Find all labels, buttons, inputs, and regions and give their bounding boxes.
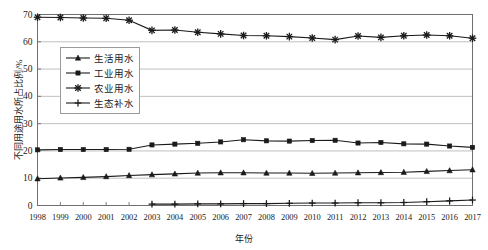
data-point-asterisk — [423, 31, 431, 39]
data-point-asterisk — [469, 34, 477, 42]
data-point-square — [104, 147, 108, 151]
legend-item: 农业用水 — [65, 80, 134, 95]
data-point-asterisk — [102, 15, 110, 23]
data-point-asterisk — [446, 32, 454, 40]
data-point-asterisk — [308, 34, 316, 42]
data-point-square — [76, 70, 80, 74]
data-point-asterisk — [217, 30, 225, 38]
data-point-plus — [149, 201, 156, 208]
data-point-asterisk — [240, 32, 248, 40]
data-point-asterisk — [377, 34, 385, 42]
data-point-square — [310, 138, 314, 142]
legend-label: 农业用水 — [91, 81, 134, 95]
data-point-plus — [423, 198, 430, 205]
data-point-square — [196, 141, 200, 145]
data-point-asterisk — [79, 14, 87, 22]
data-point-asterisk — [354, 32, 362, 40]
data-point-square — [448, 144, 452, 148]
data-point-square — [356, 141, 360, 145]
data-point-plus — [171, 201, 178, 208]
legend-item: 工业用水 — [65, 65, 134, 80]
data-point-asterisk — [74, 84, 82, 92]
data-point-square — [58, 147, 62, 151]
series-2 — [35, 138, 474, 152]
legend-marker-triangle-icon — [65, 52, 91, 64]
series-line — [38, 170, 473, 179]
data-point-plus — [75, 99, 82, 106]
legend-marker-square-icon — [65, 67, 91, 79]
data-point-square — [150, 143, 154, 147]
data-point-plus — [446, 197, 453, 204]
data-point-asterisk — [286, 33, 294, 41]
data-point-square — [241, 138, 245, 142]
data-point-asterisk — [125, 16, 133, 24]
data-point-square — [402, 142, 406, 146]
data-point-square — [379, 140, 383, 144]
legend-item: 生态补水 — [65, 95, 134, 110]
legend-marker-asterisk-icon — [65, 82, 91, 94]
data-point-square — [35, 148, 39, 152]
data-point-square — [264, 139, 268, 143]
chart-legend: 生活用水工业用水农业用水生态补水 — [60, 47, 140, 114]
data-point-asterisk — [194, 28, 202, 36]
data-point-plus — [400, 199, 407, 206]
data-point-square — [81, 147, 85, 151]
data-point-asterisk — [263, 32, 271, 40]
legend-label: 生态补水 — [91, 96, 134, 110]
data-point-asterisk — [171, 26, 179, 34]
data-point-plus — [217, 200, 224, 207]
chart-figure: 不同用途用水所占比例/% 年份 010203040506070 19981999… — [0, 0, 488, 250]
data-point-square — [287, 139, 291, 143]
plot-canvas — [0, 0, 488, 250]
data-point-asterisk — [400, 32, 408, 40]
data-point-square — [333, 138, 337, 142]
data-point-square — [425, 142, 429, 146]
legend-label: 生活用水 — [91, 51, 134, 65]
data-point-plus — [469, 197, 476, 204]
data-point-square — [219, 140, 223, 144]
series-1 — [35, 167, 475, 181]
series-line — [38, 140, 473, 150]
series-3 — [34, 13, 477, 43]
data-point-asterisk — [34, 13, 42, 21]
data-point-asterisk — [331, 36, 339, 44]
legend-marker-plus-icon — [65, 97, 91, 109]
data-point-square — [173, 142, 177, 146]
legend-label: 工业用水 — [91, 66, 134, 80]
data-point-asterisk — [148, 27, 156, 35]
data-point-square — [470, 145, 474, 149]
data-point-asterisk — [57, 14, 65, 22]
data-point-square — [127, 147, 131, 151]
data-point-plus — [194, 200, 201, 207]
legend-item: 生活用水 — [65, 50, 134, 65]
